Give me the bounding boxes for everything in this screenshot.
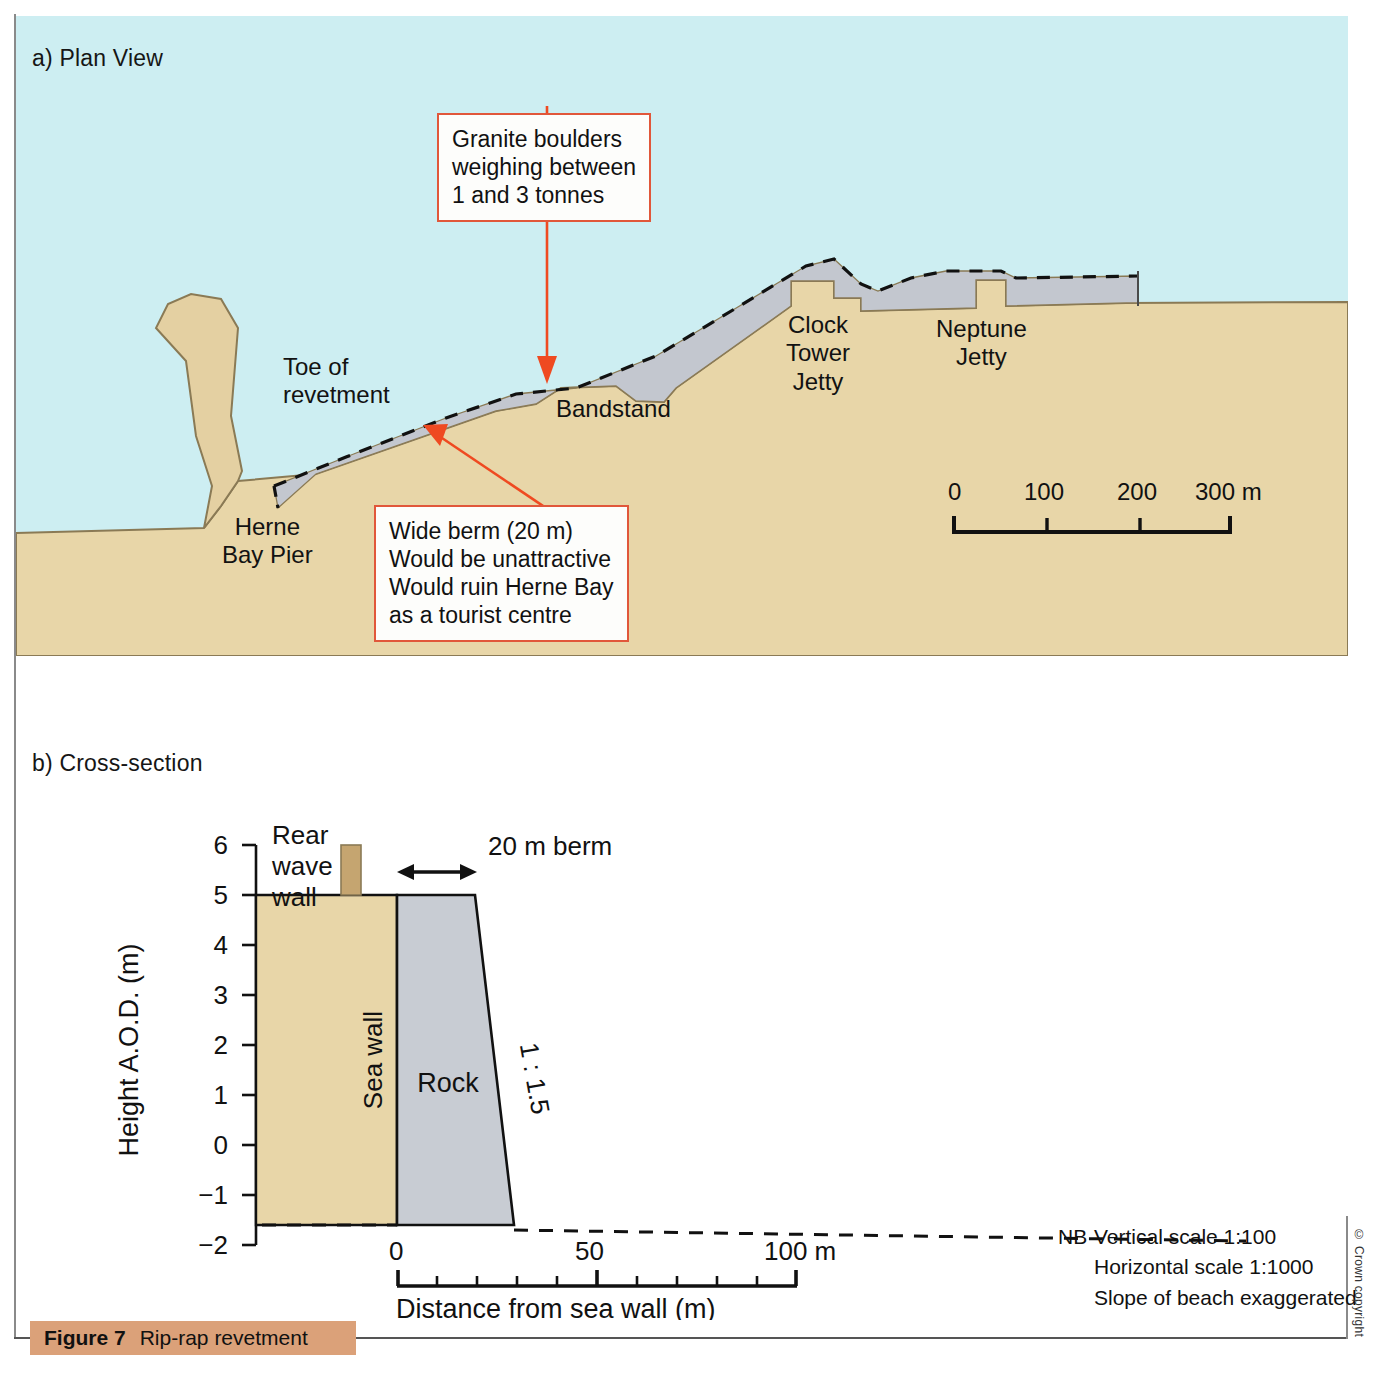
plan-view-map xyxy=(16,16,1348,656)
note-tag-nb: NB xyxy=(1058,1222,1094,1252)
x-axis-title: Distance from sea wall (m) xyxy=(396,1294,716,1320)
y-tick-label-5: 5 xyxy=(214,880,228,910)
note-slope-exaggerated: Slope of beach exaggerated xyxy=(1058,1283,1357,1313)
plan-scale-tick-100: 100 xyxy=(1024,478,1064,506)
note-slope-exaggerated-text: Slope of beach exaggerated xyxy=(1094,1286,1357,1309)
figure-number: Figure 7 xyxy=(44,1326,126,1350)
plan-scale-tick-300: 300 m xyxy=(1195,478,1262,506)
figure-page: a) Plan View Toe of revetment Bandstand … xyxy=(0,0,1390,1390)
annotation-rear-wave-wall: Rear wave wall xyxy=(272,820,333,914)
plan-scale-tick-200: 200 xyxy=(1117,478,1157,506)
note-vertical-scale-text: Vertical scale 1:100 xyxy=(1094,1225,1276,1248)
berm-dimension-arrow xyxy=(397,864,477,880)
callout-granite-boulders: Granite boulders weighing between 1 and … xyxy=(437,113,651,222)
y-tick-label-minus2: −2 xyxy=(198,1230,228,1260)
note-horizontal-scale-text: Horizontal scale 1:1000 xyxy=(1094,1255,1313,1278)
map-label-toe-of-revetment: Toe of revetment xyxy=(283,353,390,410)
x-tick-label-0: 0 xyxy=(389,1236,403,1266)
x-scale-bar-graphic xyxy=(397,1270,797,1286)
rock-revetment-body xyxy=(397,895,514,1225)
map-label-herne-bay-pier: Herne Bay Pier xyxy=(222,513,313,570)
y-tick-label-0: 0 xyxy=(214,1130,228,1160)
map-label-clock-tower-jetty: Clock Tower Jetty xyxy=(786,311,850,396)
y-tick-label-minus1: −1 xyxy=(198,1180,228,1210)
y-tick-label-1: 1 xyxy=(214,1080,228,1110)
x-tick-label-50: 50 xyxy=(575,1236,604,1266)
plan-view-panel xyxy=(16,16,1348,656)
map-label-neptune-jetty: Neptune Jetty xyxy=(936,315,1027,372)
y-tick-label-2: 2 xyxy=(214,1030,228,1060)
callout-wide-berm: Wide berm (20 m) Would be unattractive W… xyxy=(374,505,629,642)
y-axis-ticks xyxy=(242,845,256,1245)
annotation-slope-ratio: 1 : 1.5 xyxy=(514,1040,556,1116)
rear-wave-wall-body xyxy=(341,845,361,895)
figure-caption-text: Rip-rap revetment xyxy=(140,1326,308,1350)
plan-scale-bar: 0 100 200 300 m xyxy=(952,478,1232,506)
annotation-sea-wall: Sea wall xyxy=(358,1011,388,1109)
plan-scale-tick-0: 0 xyxy=(948,478,961,506)
annotation-berm-dimension: 20 m berm xyxy=(488,831,612,861)
x-tick-label-100: 100 m xyxy=(764,1236,836,1266)
note-vertical-scale: NBVertical scale 1:100 xyxy=(1058,1222,1357,1252)
plan-view-title: a) Plan View xyxy=(32,45,163,72)
crown-copyright-notice: © Crown copyright xyxy=(1352,1228,1366,1337)
figure-caption-bar: Figure 7 Rip-rap revetment xyxy=(30,1321,356,1355)
map-label-bandstand: Bandstand xyxy=(556,395,671,423)
y-tick-label-6: 6 xyxy=(214,830,228,860)
y-tick-label-4: 4 xyxy=(214,930,228,960)
cross-section-notes: NBVertical scale 1:100 Horizontal scale … xyxy=(1058,1222,1357,1313)
note-horizontal-scale: Horizontal scale 1:1000 xyxy=(1058,1252,1357,1282)
y-axis-title: Height A.O.D. (m) xyxy=(114,943,144,1156)
y-tick-label-3: 3 xyxy=(214,980,228,1010)
annotation-rock: Rock xyxy=(417,1068,479,1098)
